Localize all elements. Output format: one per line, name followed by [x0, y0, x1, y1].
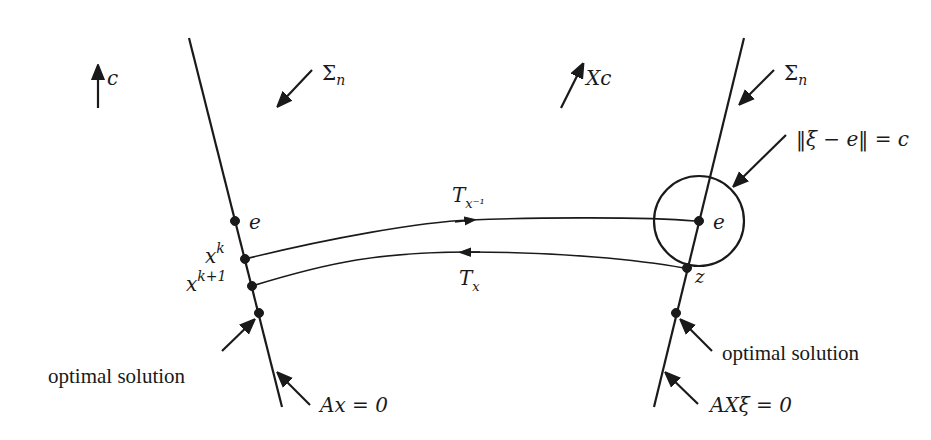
point-e-right	[695, 217, 704, 226]
point-z	[683, 264, 692, 273]
axxi-pointer-arrow	[666, 373, 698, 404]
point-e-left	[231, 217, 240, 226]
mapping-arrows: Tx⁻¹ Tx	[245, 183, 695, 294]
point-xk1-label: xk+1	[186, 268, 226, 296]
optimal-solution-left-label: optimal solution	[48, 364, 186, 388]
sigma-pointer-arrow	[278, 70, 312, 106]
optimal-pointer-right	[681, 320, 712, 351]
forward-map-label: Tx⁻¹	[452, 183, 485, 211]
right-sigma-label: Σn	[784, 61, 807, 88]
backward-map-label: Tx	[459, 266, 480, 294]
point-z-label: z	[694, 266, 705, 287]
left-sigma-label: Σn	[322, 61, 345, 88]
optimal-point-right	[672, 309, 681, 318]
ax-equals-zero-label: Ax = 0	[318, 393, 388, 417]
left-simplex-triangle	[78, 38, 393, 313]
direction-xc-arrow	[561, 64, 583, 108]
right-panel: Xc Σn ‖ξ − e‖ = c e z optimal solution A…	[541, 38, 909, 417]
optimal-solution-right-label: optimal solution	[722, 341, 860, 365]
projective-transformation-diagram: c Σn e xk xk+1 optimal solution Ax = 0 T…	[0, 0, 931, 440]
optimal-point-left	[255, 309, 264, 318]
axxi-equals-zero-label: AXξ = 0	[708, 393, 792, 417]
ball-pointer-arrow	[734, 135, 786, 186]
point-xk-label: xk	[205, 240, 225, 268]
left-panel: c Σn e xk xk+1 optimal solution Ax = 0	[48, 38, 393, 417]
ball-equation-label: ‖ξ − e‖ = c	[796, 127, 909, 152]
optimal-pointer-left	[222, 320, 254, 351]
direction-xc-label: Xc	[584, 66, 611, 90]
right-sigma-pointer-arrow	[740, 70, 774, 104]
ax-pointer-arrow	[278, 373, 310, 405]
point-e-right-label: e	[713, 210, 725, 234]
direction-c-label: c	[107, 66, 118, 90]
point-e-left-label: e	[249, 210, 261, 234]
